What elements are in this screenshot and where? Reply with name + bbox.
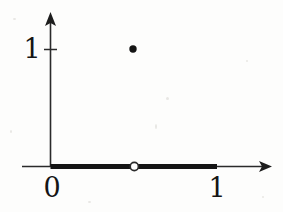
- open-circle-marker: [130, 162, 138, 170]
- y-axis-label-one: 1: [18, 35, 46, 62]
- x-axis-label-zero: 0: [38, 174, 66, 201]
- filled-dot-marker: [129, 45, 136, 52]
- x-axis-label-one: 1: [203, 174, 231, 201]
- figure-canvas: 0 1 1: [0, 0, 283, 212]
